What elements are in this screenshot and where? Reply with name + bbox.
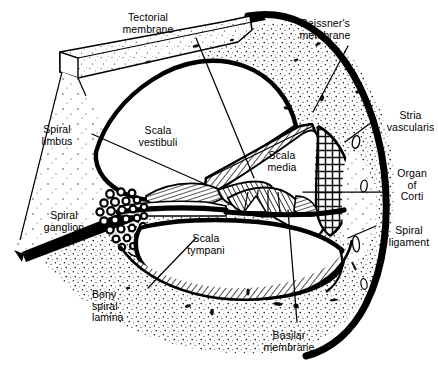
label-spiral-limbus: Spiral limbus <box>26 124 88 147</box>
label-reissners-membrane: Reissner's membrane <box>285 18 365 41</box>
cochlea-cross-section-illustration <box>0 0 438 368</box>
label-spiral-ligament: Spiral ligament <box>380 225 438 248</box>
label-tectorial-membrane: Tectorial membrane <box>108 12 188 35</box>
label-bony-spiral-lamina: Bony spiral lamina <box>92 289 152 324</box>
label-scala-tympani: Scala tympani <box>172 233 240 256</box>
label-scala-vestibuli: Scala vestibuli <box>124 125 192 148</box>
label-basilar-membrane: Basilar membrane <box>248 330 330 353</box>
figure-canvas: Tectorial membrane Reissner's membrane S… <box>0 0 438 368</box>
label-organ-of-corti: Organ of Corti <box>388 168 436 203</box>
label-spiral-ganglion: Spiral ganglion <box>28 210 100 233</box>
label-stria-vascularis: Stria vascularis <box>383 110 438 133</box>
label-scala-media: Scala media <box>254 150 310 173</box>
